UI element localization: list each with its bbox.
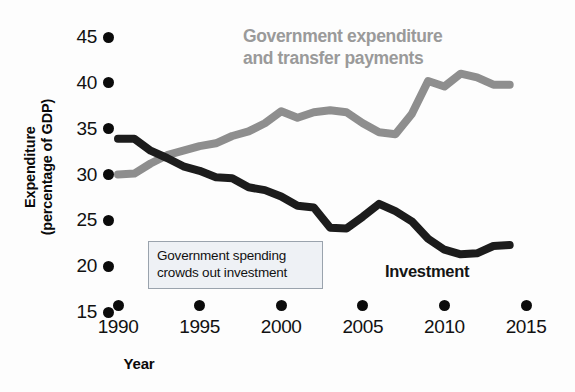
series-label-investment: Investment — [385, 262, 469, 281]
series-label-government-expenditure: Government expenditure and transfer paym… — [243, 26, 442, 70]
chart-container: Expenditure (percentage of GDP) 15202530… — [0, 0, 575, 392]
annotation-crowding-out: Government spending crowds out investmen… — [148, 241, 323, 289]
